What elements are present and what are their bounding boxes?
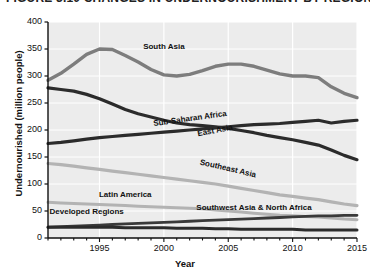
series-label: Latin America <box>98 190 153 199</box>
series-label: Southwest Asia & North Africa <box>195 203 312 212</box>
figure-undernourishment-by-region: FIGURE 3.10 CHANGES IN UNDERNOURISHMENT … <box>0 0 370 274</box>
series-label: South Asia <box>142 42 185 51</box>
series-label: Developed Regions <box>49 207 125 216</box>
